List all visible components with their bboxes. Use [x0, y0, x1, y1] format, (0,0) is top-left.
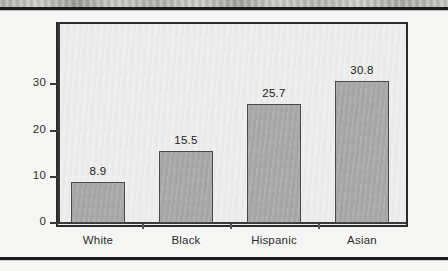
- bar-value-label: 25.7: [234, 87, 314, 99]
- y-axis-tick-label: 0: [0, 215, 46, 227]
- bar: [247, 104, 301, 223]
- x-axis-tick: [142, 224, 144, 229]
- y-axis-tick: [50, 176, 58, 178]
- x-axis-category-label: Hispanic: [230, 234, 318, 246]
- x-axis-tick: [230, 224, 232, 229]
- bar: [159, 151, 213, 223]
- bar-value-label: 30.8: [322, 64, 402, 76]
- bar-chart-figure: 0102030 8.9White15.5Black25.7Hispanic30.…: [0, 10, 448, 257]
- y-axis-tick-label: 20: [0, 123, 46, 135]
- bar-value-label: 8.9: [58, 165, 138, 177]
- x-axis-category-label: White: [54, 234, 142, 246]
- bottom-horizontal-rule-shadow: [0, 260, 448, 261]
- bar: [71, 182, 125, 223]
- bar: [335, 81, 389, 223]
- x-axis-category-label: Asian: [318, 234, 406, 246]
- bar-value-label: 15.5: [146, 134, 226, 146]
- y-axis-tick: [50, 130, 58, 132]
- scanned-page: 0102030 8.9White15.5Black25.7Hispanic30.…: [0, 0, 448, 271]
- x-axis-category-label: Black: [142, 234, 230, 246]
- y-axis-tick-label: 30: [0, 76, 46, 88]
- y-axis-tick: [50, 83, 58, 85]
- y-axis-spine: [58, 22, 60, 224]
- x-axis-tick: [318, 224, 320, 229]
- y-axis-tick: [50, 222, 58, 224]
- y-axis-tick-label: 10: [0, 169, 46, 181]
